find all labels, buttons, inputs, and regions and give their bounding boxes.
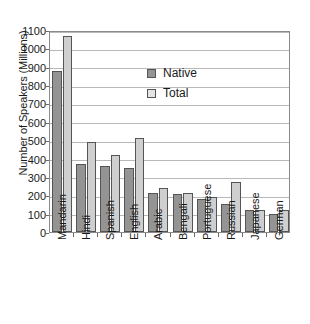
y-tick-label: 300 [6,172,46,184]
y-tick-label: 100 [6,209,46,221]
legend-label-native: Native [163,67,197,79]
x-label-hindi: Hindi [79,215,93,240]
x-label-english: English [127,204,141,240]
total-swatch-icon [147,89,156,98]
y-tick-label: 400 [6,154,46,166]
y-tick-label: 700 [6,98,46,110]
x-tick-mark [242,233,243,237]
legend-label-total: Total [163,87,188,99]
x-label-portuguese: Portuguese [200,184,214,240]
y-tick-label: 0 [6,227,46,239]
x-label-russian: Russian [224,200,238,240]
y-tick-label: 800 [6,80,46,92]
x-tick-mark [73,233,74,237]
x-label-arabic: Arabic [151,209,165,240]
native-swatch-icon [147,69,156,78]
x-tick-mark [97,233,98,237]
x-tick-mark [218,233,219,237]
legend-item-total: Total [147,84,229,102]
x-tick-mark [194,233,195,237]
x-tick-mark [170,233,171,237]
y-tick-label: 900 [6,62,46,74]
x-tick-mark [266,233,267,237]
y-tick-label: 500 [6,135,46,147]
y-tick-label: 1100 [6,25,46,37]
y-tick-label: 1000 [6,43,46,55]
y-tick-mark [45,233,49,234]
x-label-japanese: Japanese [248,192,262,240]
x-label-mandarin: Mandarin [55,194,69,240]
bar-chart: Number of Speakers (Millions) 0100200300… [0,0,310,324]
chart-legend: Native Total [147,64,229,104]
x-tick-mark [145,233,146,237]
x-label-spanish: Spanish [103,200,117,240]
x-label-bengali: Bengali [176,203,190,240]
x-label-german: German [272,200,286,240]
x-tick-mark [121,233,122,237]
legend-item-native: Native [147,64,229,82]
y-tick-label: 600 [6,117,46,129]
y-tick-label: 200 [6,190,46,202]
